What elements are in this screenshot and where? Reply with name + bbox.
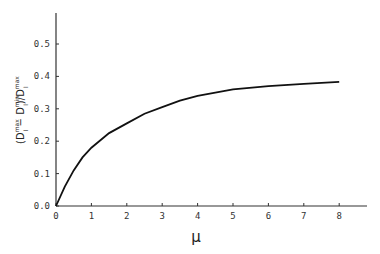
x-tick-label: 8 (336, 211, 341, 221)
y-tick-label: 0.5 (34, 39, 50, 49)
x-tick-label: 1 (89, 211, 94, 221)
y-axis-label: (Dmaxl − Dminl)/Dmaxl (13, 76, 29, 144)
x-axis-label: μ (191, 228, 201, 246)
svg-text:(Dmaxl − Dminl)/Dmaxl: (Dmaxl − Dminl)/Dmaxl (13, 76, 29, 144)
axes (56, 13, 367, 206)
x-tick-label: 0 (53, 211, 58, 221)
y-tick-label: 0.2 (34, 136, 50, 146)
x-tick-label: 7 (301, 211, 306, 221)
y-tick-label: 0.1 (34, 169, 50, 179)
x-tick-label: 5 (230, 211, 235, 221)
y-tick-label: 0.4 (34, 71, 50, 81)
y-tick-label: 0.0 (34, 201, 50, 211)
y-tick-label: 0.3 (34, 104, 50, 114)
x-tick-label: 6 (266, 211, 271, 221)
data-line (56, 82, 339, 206)
y-ticks: 0.00.10.20.30.40.5 (34, 39, 59, 211)
x-tick-label: 4 (195, 211, 200, 221)
chart: 012345678 0.00.10.20.30.40.5 μ (Dmaxl − … (0, 0, 380, 254)
x-tick-label: 3 (159, 211, 164, 221)
x-tick-label: 2 (124, 211, 129, 221)
